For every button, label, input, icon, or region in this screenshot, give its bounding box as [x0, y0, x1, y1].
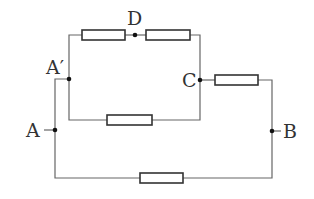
resistor-r4 [215, 75, 258, 85]
label-a-prime: A′ [45, 56, 64, 78]
resistors [82, 30, 258, 183]
wire-aprime-to-a [55, 79, 140, 178]
wire-r4-to-b [183, 80, 272, 178]
wires [44, 35, 281, 178]
circuit-diagram: D A′ C A B [0, 0, 314, 199]
node-a [53, 128, 58, 133]
wire-top-branch [69, 35, 82, 79]
label-b: B [283, 120, 297, 142]
label-d: D [127, 7, 142, 29]
label-a: A [25, 119, 40, 141]
label-c: C [182, 69, 197, 91]
node-a-prime [67, 77, 72, 82]
resistor-r5 [140, 173, 183, 183]
wire-mid-branch-left [69, 79, 107, 120]
node-d [133, 33, 138, 38]
node-b [270, 129, 275, 134]
resistor-r2 [146, 30, 190, 40]
resistor-r3 [107, 115, 152, 125]
node-c [198, 78, 203, 83]
resistor-r1 [82, 30, 125, 40]
